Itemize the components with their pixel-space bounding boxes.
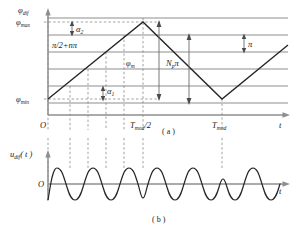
panel-b: udif( t ) O t ( b ) — [10, 138, 290, 224]
label-pi-over-2-plus-n-pi: π/2+nπ — [52, 40, 78, 50]
panel-a-y-axis-label: φdif — [18, 5, 30, 16]
measure-phi-m — [157, 20, 162, 101]
panel-b-y-axis-arrow — [45, 150, 50, 158]
label-phi-m: φm — [126, 58, 135, 69]
x-tick-half-period: Tmod/2 — [130, 120, 152, 131]
figure-svg: φdif φmax φmin α2 α1 π/2+nπ φm Npπ π O T… — [0, 0, 296, 236]
measure-alpha-2-arrow-down — [70, 31, 74, 37]
panel-a-x-axis-label: t — [279, 120, 282, 130]
measure-phi-m-arrow-down — [157, 94, 162, 101]
x-tick-full-period: Tmod — [212, 120, 227, 131]
panel-a-origin-label: O — [40, 120, 46, 130]
panel-b-x-axis-arrow — [283, 181, 291, 186]
y-tick-phi-min: φmin — [16, 94, 29, 105]
label-pi-step: π — [248, 39, 253, 49]
measure-np-pi-arrow-down — [187, 98, 192, 105]
panel-a-caption: ( a ) — [162, 127, 175, 136]
label-alpha-1: α1 — [107, 86, 114, 97]
panel-a-x-axis-arrow — [283, 112, 291, 117]
measure-phi-m-arrow-up — [157, 20, 162, 27]
measure-pi — [242, 34, 246, 54]
panel-b-origin-label: O — [38, 179, 44, 189]
dashed-verticals — [48, 12, 222, 130]
figure-container: φdif φmax φmin α2 α1 π/2+nπ φm Npπ π O T… — [0, 0, 296, 236]
measure-alpha-2-arrow-up — [70, 21, 74, 27]
measure-pi-arrow-down — [242, 48, 246, 54]
label-alpha-2: α2 — [76, 24, 83, 35]
panel-b-x-axis-label: t — [279, 186, 282, 196]
measure-pi-arrow-up — [242, 34, 246, 40]
panel-b-y-axis-label: udif( t ) — [10, 149, 33, 160]
label-np-pi: Npπ — [165, 58, 179, 69]
measure-alpha-2 — [70, 21, 74, 37]
panel-b-caption: ( b ) — [152, 215, 166, 224]
panel-a-y-axis-arrow — [45, 8, 50, 16]
measure-np-pi-arrow-up — [187, 33, 192, 40]
y-tick-phi-max: φmax — [16, 17, 31, 28]
panel-a: φdif φmax φmin α2 α1 π/2+nπ φm Npπ π O T… — [16, 5, 290, 136]
